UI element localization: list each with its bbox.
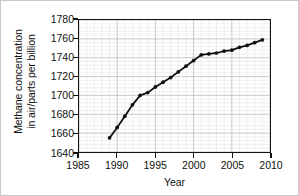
x-axis-tick-mark (270, 153, 271, 158)
x-axis-tick-label: 2010 (259, 159, 282, 171)
y-axis-tick-mark (73, 114, 78, 115)
y-axis-tick-label: 1740 (51, 52, 74, 63)
y-axis-tick-label: 1660 (51, 128, 74, 139)
plot-area (78, 19, 271, 153)
y-axis-tick-labels: 16401660168017001720174017601780 (41, 13, 77, 159)
x-axis-tick-label: 2005 (221, 159, 244, 171)
methane-concentration-chart: Methane concentration in air/parts per b… (0, 0, 299, 196)
x-axis-tick-mark (116, 153, 117, 158)
y-axis-tick-label: 1760 (51, 33, 74, 44)
y-axis-tick-label: 1780 (51, 14, 74, 25)
y-axis-tick-mark (73, 95, 78, 96)
y-axis-tick-mark (73, 133, 78, 134)
x-axis-tick-mark (193, 153, 194, 158)
y-axis-tick-label: 1640 (51, 148, 74, 159)
y-axis-title-line1: Methane concentration (12, 29, 24, 134)
x-axis-title: Year (78, 176, 271, 188)
x-axis-tick-mark (155, 153, 156, 158)
y-axis-tick-mark (73, 38, 78, 39)
y-axis-title-line2: in air/parts per billion (24, 29, 37, 134)
y-axis-tick-mark (73, 57, 78, 58)
x-axis-tick-mark (77, 153, 78, 158)
y-axis-tick-label: 1720 (51, 71, 74, 82)
x-axis-tick-label: 1990 (105, 159, 128, 171)
y-axis-tick-mark (73, 76, 78, 77)
y-axis-tick-label: 1700 (51, 90, 74, 101)
data-series-line (79, 20, 270, 152)
x-axis-tick-label: 2000 (182, 159, 205, 171)
x-axis-tick-label: 1995 (144, 159, 167, 171)
y-axis-tick-mark (73, 18, 78, 19)
y-axis-tick-label: 1680 (51, 109, 74, 120)
x-axis-tick-mark (232, 153, 233, 158)
x-axis-tick-label: 1985 (66, 159, 89, 171)
